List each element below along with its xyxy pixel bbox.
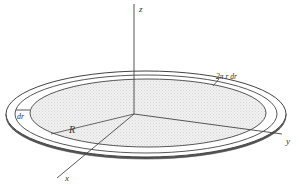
radius-label: R xyxy=(68,124,75,135)
dr-label: dr xyxy=(17,112,25,121)
ring-inner-ellipse xyxy=(30,79,266,147)
ring-area-label: 2π r dr xyxy=(216,72,237,81)
disc-diagram: dr 2π r dr R z y x xyxy=(0,0,299,185)
y-axis-label: y xyxy=(285,136,290,146)
z-axis-label: z xyxy=(138,4,143,14)
x-axis-label: x xyxy=(64,173,69,183)
